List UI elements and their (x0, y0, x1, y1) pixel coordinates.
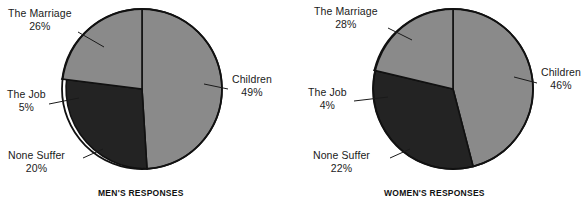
pie-label-value: 28% (314, 18, 378, 31)
pie-label-the-job-women: The Job 4% (308, 86, 347, 111)
pie-label-the-job-men: The Job 5% (7, 88, 46, 113)
pie-label-name: Children (541, 66, 581, 79)
pie-chart-figure: The Marriage 26% The Job 5% None Suffer … (0, 0, 583, 213)
pie-label-name: The Marriage (314, 5, 378, 18)
chart-caption-women: WOMEN'S RESPONSES (384, 188, 485, 198)
pie-label-value: 22% (313, 162, 370, 175)
chart-panel-men: The Marriage 26% The Job 5% None Suffer … (0, 0, 291, 213)
pie-label-name: Children (232, 73, 272, 86)
pie-slice-children-men (142, 9, 222, 169)
pie-label-value: 5% (7, 101, 46, 114)
pie-label-children-women: Children 46% (541, 66, 581, 91)
pie-label-value: 49% (232, 86, 272, 99)
pie-label-name: The Job (308, 86, 347, 99)
pie-label-the-marriage-women: The Marriage 28% (314, 5, 378, 30)
pie-label-value: 20% (8, 162, 65, 175)
pie-label-name: The Job (7, 88, 46, 101)
chart-caption-men: MEN'S RESPONSES (98, 188, 184, 198)
pie-label-children-men: Children 49% (232, 73, 272, 98)
pie-label-name: None Suffer (313, 149, 370, 162)
pie-slice-the-marriage-men (62, 9, 142, 89)
pie-label-value: 4% (308, 99, 347, 112)
pie-label-value: 46% (541, 79, 581, 92)
pie-label-name: None Suffer (8, 149, 65, 162)
pie-label-name: The Marriage (8, 7, 72, 20)
pie-label-none-suffer-men: None Suffer 20% (8, 149, 65, 174)
pie-label-none-suffer-women: None Suffer 22% (313, 149, 370, 174)
pie-label-the-marriage-men: The Marriage 26% (8, 7, 72, 32)
chart-panel-women: The Marriage 28% The Job 4% None Suffer … (292, 0, 583, 213)
pie-label-value: 26% (8, 20, 72, 33)
